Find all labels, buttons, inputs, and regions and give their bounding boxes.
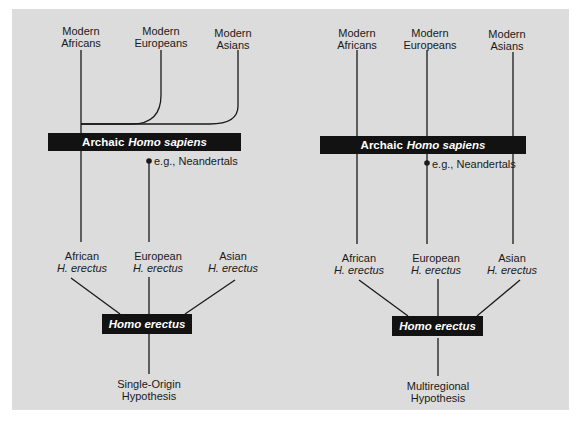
label-european-erectus: EuropeanH. erectus: [411, 252, 461, 276]
label-modern-africans: ModernAfricans: [337, 27, 377, 51]
label-modern-asians: ModernAsians: [214, 27, 251, 51]
neandertal-dot-left: [146, 158, 152, 164]
label-asian-erectus: AsianH. erectus: [487, 252, 537, 276]
caption-single-origin: Single-OriginHypothesis: [117, 378, 181, 402]
caption-multiregional: MultiregionalHypothesis: [407, 380, 469, 404]
label-modern-asians: ModernAsians: [488, 28, 525, 52]
neandertals-note: e.g., Neandertals: [154, 155, 238, 167]
homo-erectus-bar: Homo erectus: [102, 314, 192, 334]
label-european-erectus: EuropeanH. erectus: [133, 250, 183, 274]
label-african-erectus: AfricanH. erectus: [334, 252, 384, 276]
label-modern-europeans: ModernEuropeans: [134, 25, 187, 49]
tree-lines: [0, 0, 579, 422]
neandertal-dot-right: [424, 160, 430, 166]
neandertals-note: e.g., Neandertals: [432, 158, 516, 170]
label-african-erectus: AfricanH. erectus: [57, 250, 107, 274]
label-modern-europeans: ModernEuropeans: [403, 27, 456, 51]
homo-erectus-bar: Homo erectus: [392, 316, 483, 336]
archaic-homo-sapiens-bar: ArchaicHomo sapiens: [48, 133, 241, 151]
label-modern-africans: ModernAfricans: [61, 25, 101, 49]
archaic-homo-sapiens-bar: ArchaicHomo sapiens: [320, 136, 526, 154]
label-asian-erectus: AsianH. erectus: [208, 250, 258, 274]
